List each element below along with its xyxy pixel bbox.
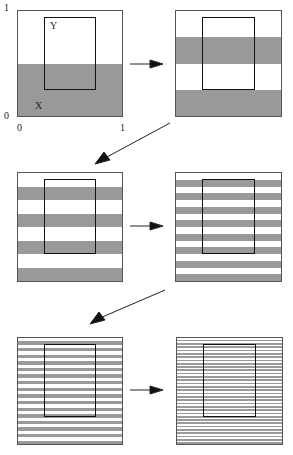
arrow-diag-1 xyxy=(105,123,170,158)
arrow-diag-2-head xyxy=(90,312,105,324)
arrow-right-3-head xyxy=(150,386,163,394)
arrow-diag-2 xyxy=(100,290,165,318)
arrow-right-1-head xyxy=(150,60,163,68)
arrow-diag-1-head xyxy=(95,152,110,164)
transition-arrows xyxy=(0,0,293,455)
arrow-right-2-head xyxy=(150,222,163,230)
